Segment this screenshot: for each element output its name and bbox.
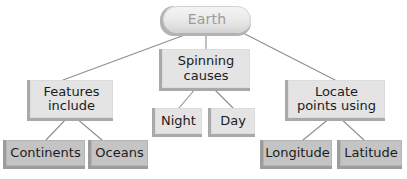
node-features-include[interactable]: Features include	[30, 80, 113, 118]
connector-spinning-to-night	[179, 88, 196, 108]
node-night-label: Night	[156, 114, 201, 128]
connector-features-to-oceans	[76, 118, 102, 140]
node-longitude[interactable]: Longitude	[263, 140, 332, 166]
node-day[interactable]: Day	[211, 108, 255, 134]
node-continents-label: Continents	[7, 146, 84, 160]
node-spinning-causes[interactable]: Spinning causes	[162, 49, 250, 88]
node-longitude-label: Longitude	[263, 146, 332, 160]
node-latitude-label: Latitude	[341, 146, 401, 160]
node-earth[interactable]: Earth	[163, 6, 251, 33]
connector-locate-to-latitude	[340, 118, 364, 140]
connector-earth-to-locate	[243, 33, 335, 80]
node-features-include-label: Features include	[31, 85, 112, 113]
connector-locate-to-longitude	[303, 118, 330, 140]
node-day-label: Day	[212, 114, 254, 128]
connector-spinning-to-day	[213, 88, 233, 108]
node-locate-points-using-label: Locate points using	[289, 85, 384, 113]
concept-map-diagram: Earth Features include Spinning causes L…	[0, 0, 407, 179]
node-earth-label: Earth	[164, 12, 250, 27]
node-continents[interactable]: Continents	[6, 140, 85, 166]
node-locate-points-using[interactable]: Locate points using	[288, 80, 385, 118]
node-night[interactable]: Night	[155, 108, 202, 134]
node-oceans[interactable]: Oceans	[91, 140, 148, 166]
node-oceans-label: Oceans	[92, 146, 147, 160]
node-spinning-causes-label: Spinning causes	[163, 54, 249, 82]
node-latitude[interactable]: Latitude	[340, 140, 402, 166]
connector-features-to-continents	[46, 118, 67, 140]
